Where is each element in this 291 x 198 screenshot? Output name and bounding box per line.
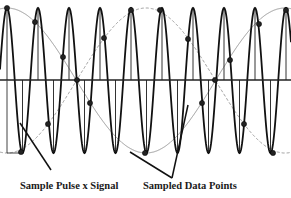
sample-point-dot — [270, 150, 275, 155]
sample-point-dot — [185, 36, 190, 41]
sample-point-dot — [157, 7, 162, 12]
sample-point-dot — [256, 21, 261, 26]
sample-point-dot — [45, 121, 50, 126]
sample-point-dot — [227, 57, 232, 62]
sample-point-dot — [32, 19, 37, 24]
sample-point-dot — [74, 77, 79, 82]
sample-point-dot — [4, 5, 9, 10]
sample-point-dot — [199, 100, 204, 105]
sample-point-dot — [18, 149, 23, 154]
label-pointer-line — [130, 152, 172, 178]
sample-point-dot — [212, 77, 217, 82]
label-sample-pulse-signal: Sample Pulse x Signal — [20, 180, 118, 191]
sample-point-dot — [142, 150, 147, 155]
sampling-diagram — [0, 0, 291, 198]
sample-point-dot — [60, 54, 65, 59]
sample-point-dot — [241, 121, 246, 126]
sample-point-dot — [283, 7, 288, 12]
sample-point-dot — [87, 100, 92, 105]
sample-point-dot — [101, 35, 106, 40]
sample-point-dot — [128, 7, 133, 12]
label-sampled-data-points: Sampled Data Points — [143, 180, 237, 191]
